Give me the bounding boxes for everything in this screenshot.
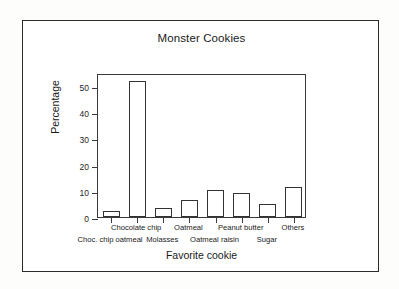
x-tick-label: Molasses: [146, 235, 178, 244]
x-tick-label: Chocolate chip: [111, 223, 161, 232]
x-tick-label: Peanut butter: [218, 223, 264, 232]
plot-inner: 01020304050: [98, 75, 305, 217]
y-tick-label: 40: [80, 109, 89, 119]
y-tick-label: 10: [80, 188, 89, 198]
chart-title: Monster Cookies: [23, 32, 380, 44]
bars-layer: [98, 75, 305, 217]
x-tick-label: Choc. chip oatmeal: [78, 235, 143, 244]
bar: [129, 81, 146, 217]
x-tick-label: Others: [282, 223, 305, 232]
bar: [155, 208, 172, 217]
y-tick-label: 50: [80, 83, 89, 93]
x-tick-label: Oatmeal raisin: [190, 235, 239, 244]
x-tick-label: Oatmeal: [174, 223, 203, 232]
plot-area: 01020304050: [97, 74, 306, 218]
x-tick-label: Sugar: [257, 235, 277, 244]
bar: [233, 193, 250, 217]
bar-chart-figure: Monster Cookies Percentage 01020304050 C…: [23, 21, 380, 273]
scanned-page: Monster Cookies Percentage 01020304050 C…: [0, 0, 399, 289]
bar: [285, 187, 302, 217]
y-tick-label: 20: [80, 162, 89, 172]
y-tick-label: 30: [80, 135, 89, 145]
bar: [207, 190, 224, 217]
bar: [181, 200, 198, 217]
y-axis-title: Percentage: [49, 62, 61, 152]
category-labels: Choc. chip oatmealChocolate chipMolasses…: [23, 220, 380, 250]
bar: [259, 204, 276, 217]
figure-border: Monster Cookies Percentage 01020304050 C…: [22, 20, 379, 272]
x-axis-title: Favorite cookie: [97, 249, 306, 261]
